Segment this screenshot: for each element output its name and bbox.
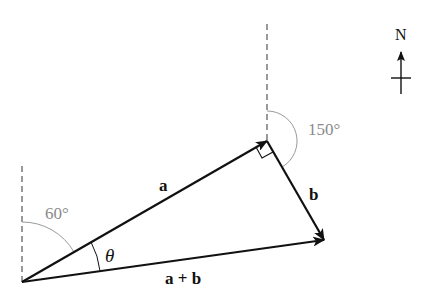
angle-arc-theta xyxy=(91,242,100,271)
compass-north-icon: N xyxy=(391,26,411,94)
vector-sum-label: a + b xyxy=(165,269,201,288)
compass-n-label: N xyxy=(395,26,407,43)
vector-a-label: a xyxy=(159,176,168,195)
angle-arc-60 xyxy=(22,222,74,252)
angle-150-label: 150° xyxy=(308,120,340,139)
angle-arc-150 xyxy=(267,111,297,167)
vector-diagram: a b a + b 60° 150° θ N xyxy=(0,0,426,304)
angle-60-label: 60° xyxy=(45,204,69,223)
angle-theta-label: θ xyxy=(105,245,114,266)
vector-b-label: b xyxy=(309,185,318,204)
